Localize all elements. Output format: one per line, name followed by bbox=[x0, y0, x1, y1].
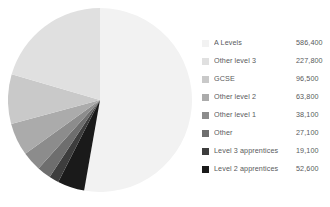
legend-value: 19,100 bbox=[296, 142, 330, 160]
chart-legend: A Levels 586,400 Other level 3 227,800 G… bbox=[202, 34, 330, 178]
legend-swatch-icon bbox=[202, 58, 209, 65]
pie-chart-svg bbox=[8, 8, 192, 192]
legend-item-gcse[interactable]: GCSE 96,500 bbox=[202, 70, 330, 88]
legend-swatch-icon bbox=[202, 40, 209, 47]
pie-slice[interactable] bbox=[84, 8, 192, 192]
legend-label: Other bbox=[214, 124, 296, 142]
pie-chart-plot-area bbox=[8, 8, 192, 192]
legend-value: 227,800 bbox=[296, 52, 330, 70]
legend-swatch-icon bbox=[202, 76, 209, 83]
legend-swatch-icon bbox=[202, 112, 209, 119]
legend-item-level-3-apprentices[interactable]: Level 3 apprentices 19,100 bbox=[202, 142, 330, 160]
legend-value: 38,100 bbox=[296, 106, 330, 124]
legend-label: Other level 2 bbox=[214, 88, 296, 106]
legend-value: 63,800 bbox=[296, 88, 330, 106]
legend-value: 96,500 bbox=[296, 70, 330, 88]
pie-slice-group bbox=[8, 8, 192, 192]
legend-item-other-level-3[interactable]: Other level 3 227,800 bbox=[202, 52, 330, 70]
legend-value: 27,100 bbox=[296, 124, 330, 142]
legend-item-a-levels[interactable]: A Levels 586,400 bbox=[202, 34, 330, 52]
legend-label: Other level 3 bbox=[214, 52, 296, 70]
legend-label: GCSE bbox=[214, 70, 296, 88]
legend-value: 586,400 bbox=[296, 34, 330, 52]
legend-swatch-icon bbox=[202, 94, 209, 101]
legend-item-level-2-apprentices[interactable]: Level 2 apprentices 52,600 bbox=[202, 160, 330, 178]
pie-chart-figure: A Levels 586,400 Other level 3 227,800 G… bbox=[0, 0, 330, 207]
legend-label: A Levels bbox=[214, 34, 296, 52]
legend-label: Level 3 apprentices bbox=[214, 142, 296, 160]
legend-item-other[interactable]: Other 27,100 bbox=[202, 124, 330, 142]
legend-swatch-icon bbox=[202, 148, 209, 155]
legend-value: 52,600 bbox=[296, 160, 330, 178]
legend-swatch-icon bbox=[202, 130, 209, 137]
legend-swatch-icon bbox=[202, 166, 209, 173]
legend-item-other-level-2[interactable]: Other level 2 63,800 bbox=[202, 88, 330, 106]
legend-item-other-level-1[interactable]: Other level 1 38,100 bbox=[202, 106, 330, 124]
legend-label: Other level 1 bbox=[214, 106, 296, 124]
legend-label: Level 2 apprentices bbox=[214, 160, 296, 178]
